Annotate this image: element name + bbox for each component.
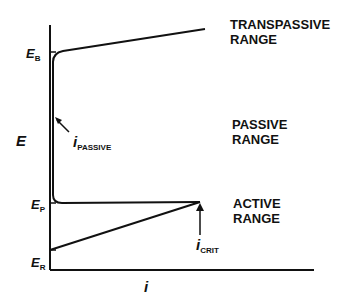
region-passive: PASSIVE RANGE xyxy=(232,117,287,147)
marker-e-p: EP xyxy=(31,195,45,214)
active-branch-line xyxy=(50,202,200,250)
i-crit-arrowhead xyxy=(196,203,204,211)
passive-curve xyxy=(53,29,205,203)
y-axis-label: E xyxy=(16,132,26,150)
marker-e-b: EB xyxy=(26,44,40,63)
marker-i-passive: iPASSIVE xyxy=(73,133,111,152)
x-axis-label: i xyxy=(144,278,148,296)
marker-e-r: ER xyxy=(31,253,45,272)
region-transpassive: TRANSPASSIVE RANGE xyxy=(230,17,330,47)
marker-i-crit: iCRIT xyxy=(196,236,219,255)
region-active: ACTIVE RANGE xyxy=(233,196,281,226)
